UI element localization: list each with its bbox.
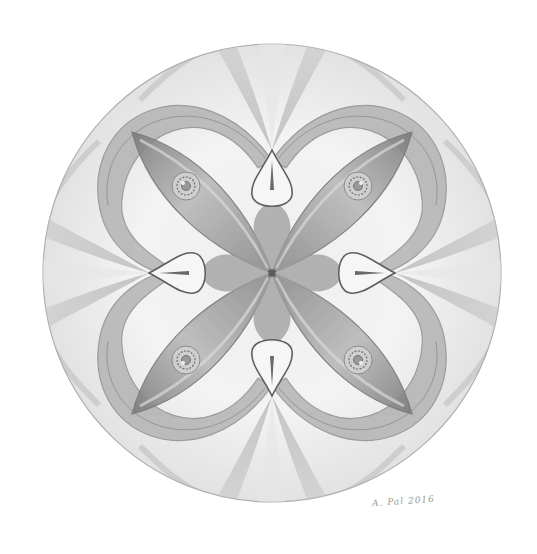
mandala-artwork bbox=[0, 0, 537, 554]
